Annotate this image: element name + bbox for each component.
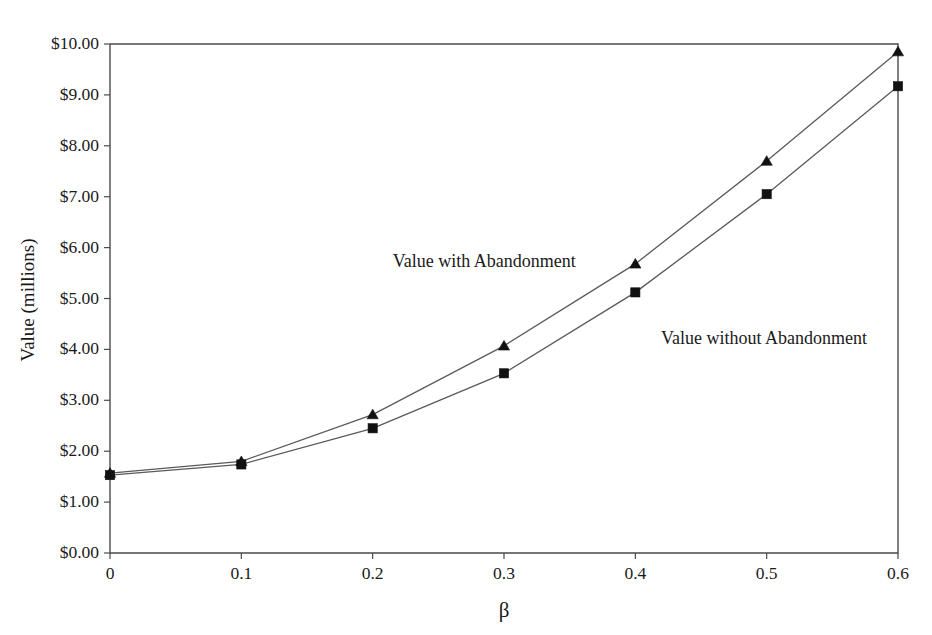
plot-frame (110, 44, 898, 553)
y-axis-title: Value (millions) (17, 239, 39, 362)
data-point-square (762, 190, 771, 199)
y-tick-label: $9.00 (60, 84, 100, 104)
y-tick-label: $3.00 (60, 389, 100, 409)
y-tick-label: $4.00 (60, 338, 100, 358)
x-tick-label: 0.5 (756, 563, 778, 583)
x-tick-label: 0.4 (624, 563, 646, 583)
data-point-square (368, 424, 377, 433)
x-tick-label: 0.1 (230, 563, 252, 583)
x-tick-label: 0.6 (887, 563, 909, 583)
x-axis-tick-labels: 00.10.20.30.40.50.6 (106, 563, 910, 583)
y-tick-label: $8.00 (60, 135, 100, 155)
series-annotation-label: Value with Abandonment (393, 251, 576, 271)
data-point-triangle (892, 46, 903, 56)
data-point-square (631, 288, 640, 297)
y-tick-label: $0.00 (60, 542, 100, 562)
x-tick-label: 0.3 (493, 563, 515, 583)
data-point-triangle (498, 340, 509, 350)
x-axis-ticks (110, 553, 898, 559)
y-tick-label: $5.00 (60, 288, 100, 308)
data-point-square (237, 460, 246, 469)
x-tick-label: 0.2 (362, 563, 384, 583)
series-line (110, 86, 898, 475)
y-tick-label: $10.00 (51, 33, 99, 53)
x-tick-label: 0 (106, 563, 115, 583)
data-point-triangle (367, 409, 378, 419)
series-annotation-label: Value without Abandonment (661, 328, 867, 348)
data-point-triangle (630, 258, 641, 268)
chart-figure: $0.00$1.00$2.00$3.00$4.00$5.00$6.00$7.00… (0, 0, 932, 635)
data-point-square (893, 82, 902, 91)
y-axis-tick-labels: $0.00$1.00$2.00$3.00$4.00$5.00$6.00$7.00… (51, 33, 99, 562)
data-point-square (499, 369, 508, 378)
chart-svg: $0.00$1.00$2.00$3.00$4.00$5.00$6.00$7.00… (0, 0, 932, 635)
y-tick-label: $6.00 (60, 237, 100, 257)
y-tick-label: $2.00 (60, 440, 100, 460)
y-tick-label: $1.00 (60, 491, 100, 511)
x-axis-title: β (499, 598, 510, 622)
data-point-square (105, 471, 114, 480)
y-tick-label: $7.00 (60, 186, 100, 206)
series-annotations: Value with AbandonmentValue without Aban… (393, 251, 867, 348)
